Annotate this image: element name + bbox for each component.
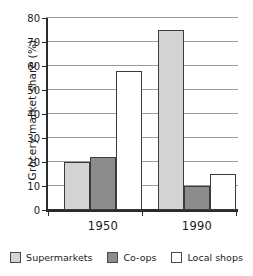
bar <box>64 162 90 210</box>
bar <box>90 157 116 210</box>
legend-label: Local shops <box>187 252 242 263</box>
x-axis-label-1990: 1990 <box>167 219 227 233</box>
grid-line <box>46 89 238 90</box>
y-axis-line <box>46 18 48 211</box>
y-tick-label: 50 <box>6 85 40 96</box>
y-tick-label: 60 <box>6 61 40 72</box>
grid-line <box>46 17 238 18</box>
grid-line <box>46 113 238 114</box>
legend-swatch-icon <box>171 252 182 263</box>
y-tick-label: 30 <box>6 133 40 144</box>
legend-label: Co-ops <box>123 252 156 263</box>
y-tick-label: 10 <box>6 181 40 192</box>
y-tick-label: 20 <box>6 157 40 168</box>
legend-item[interactable]: Supermarkets <box>10 252 92 263</box>
x-tick-mark <box>142 211 143 216</box>
x-tick-mark <box>48 211 49 216</box>
y-tick-label: 0 <box>6 205 40 216</box>
x-tick-mark <box>236 211 237 216</box>
y-tick-label: 70 <box>6 37 40 48</box>
legend-item[interactable]: Co-ops <box>107 252 156 263</box>
x-axis-label-1950: 1950 <box>73 219 133 233</box>
bar <box>184 186 210 210</box>
legend-swatch-icon <box>10 252 21 263</box>
legend-swatch-icon <box>107 252 118 263</box>
bar <box>158 30 184 210</box>
grid-line <box>46 137 238 138</box>
y-tick-label: 40 <box>6 109 40 120</box>
plot-area <box>46 18 238 210</box>
y-tick-label: 80 <box>6 13 40 24</box>
bar-chart: Grocery market share (%) 010203040506070… <box>0 0 253 276</box>
grid-line <box>46 65 238 66</box>
legend-item[interactable]: Local shops <box>171 252 242 263</box>
grid-line <box>46 41 238 42</box>
bar <box>210 174 236 210</box>
bar <box>116 71 142 210</box>
legend-label: Supermarkets <box>26 252 92 263</box>
chart-legend: SupermarketsCo-opsLocal shops <box>0 252 253 263</box>
